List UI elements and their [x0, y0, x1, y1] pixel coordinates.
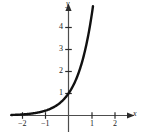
x-tick-label-1: 1 — [90, 120, 94, 128]
x-axis-label: x — [133, 110, 137, 118]
y-axis-label: y — [66, 0, 70, 8]
y-tick-label-1: 1 — [59, 89, 63, 97]
y-tick-label-3: 3 — [59, 45, 63, 53]
x-tick-label-2: 2 — [113, 120, 117, 128]
x-tick-label-neg1: −1 — [41, 120, 50, 128]
exponential-curve — [11, 6, 93, 115]
y-tick-label-2: 2 — [59, 67, 63, 75]
exponential-graph-figure: −2 −1 1 2 1 2 3 4 x y — [0, 0, 141, 140]
y-tick-label-4: 4 — [59, 23, 63, 31]
x-tick-label-neg2: −2 — [18, 120, 27, 128]
